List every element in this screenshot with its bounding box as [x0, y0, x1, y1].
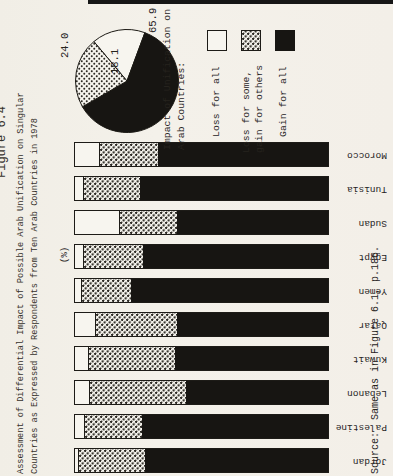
segment-loss-some-gain-others [85, 415, 142, 438]
book-page: Figure 6.4 Assessment of Differential Im… [0, 0, 393, 476]
segment-loss-for-all [75, 245, 84, 268]
figure-title-line1: Assessment of Differential Impact of Pos… [16, 92, 27, 474]
bar-column [74, 448, 329, 473]
segment-loss-some-gain-others [82, 279, 131, 302]
segment-loss-some-gain-others [90, 381, 186, 404]
segment-loss-some-gain-others [89, 347, 175, 370]
segment-loss-for-all [75, 313, 96, 336]
legend-label-gain-for-all: Gain for all [278, 66, 290, 137]
bar-column [74, 210, 329, 235]
legend-heading-line1: Impact of Unification on [162, 9, 174, 150]
figure-title-line2: Countries as Expressed by Respondents fr… [30, 118, 41, 474]
segment-gain-for-all [175, 347, 328, 370]
segment-loss-for-all [75, 415, 85, 438]
segment-loss-for-all [75, 177, 84, 200]
segment-gain-for-all [145, 449, 328, 472]
segment-loss-for-all [75, 279, 82, 302]
bar-column [74, 142, 329, 167]
rotated-scan: Figure 6.4 Assessment of Differential Im… [0, 0, 393, 476]
segment-loss-some-gain-others [120, 211, 177, 234]
segment-loss-for-all [75, 381, 90, 404]
country-label: Morocco [330, 151, 387, 161]
source-note: Source: Same as in Figure 6.1, p.186. [370, 246, 383, 474]
legend-swatch-loss-some [241, 30, 261, 51]
legend-swatch-gain-for-all [275, 30, 295, 51]
segment-loss-some-gain-others [84, 245, 143, 268]
segment-loss-for-all [75, 211, 120, 234]
segment-loss-some-gain-others [96, 313, 177, 336]
scan-edge-shadow [88, 0, 393, 4]
segment-gain-for-all [140, 177, 328, 200]
bar-column [74, 312, 329, 337]
pie-value-label-white: 18.1 [109, 49, 122, 74]
legend-label-loss-some-line1: Loss for some, [241, 71, 253, 153]
bar-column [74, 346, 329, 371]
bar-column [74, 380, 329, 405]
segment-loss-some-gain-others [100, 143, 158, 166]
legend-label-loss-for-all: Loss for all [211, 66, 223, 137]
country-label: Sudan [330, 219, 387, 229]
pie-value-label-dotted: 24.0 [59, 33, 72, 58]
segment-gain-for-all [177, 313, 328, 336]
segment-loss-for-all [75, 347, 89, 370]
legend-label-loss-some-line2: gain for others [254, 65, 266, 153]
segment-gain-for-all [177, 211, 328, 234]
bar-column [74, 176, 329, 201]
pie-value-label-black: 65.9 [147, 8, 160, 33]
segment-loss-some-gain-others [84, 177, 140, 200]
legend-swatch-loss-for-all [207, 30, 227, 51]
bar-column [74, 278, 329, 303]
figure-number-label: Figure 6.4 [0, 106, 10, 178]
segment-gain-for-all [186, 381, 328, 404]
legend-heading-line2: Arab Countries: [176, 62, 188, 150]
segment-loss-some-gain-others [79, 449, 145, 472]
segment-gain-for-all [131, 279, 328, 302]
segment-gain-for-all [143, 245, 328, 268]
segment-gain-for-all [142, 415, 328, 438]
bar-column [74, 244, 329, 269]
segment-loss-for-all [75, 143, 100, 166]
bar-column [74, 414, 329, 439]
axis-unit-label: (%) [60, 247, 71, 263]
country-label: Tunisia [330, 185, 387, 195]
